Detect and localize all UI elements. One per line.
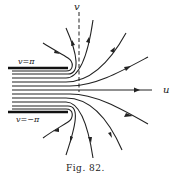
arrow-icon (53, 128, 59, 132)
u-axis-label: u (163, 84, 169, 95)
streamline (12, 102, 93, 158)
upper-streamlines (12, 20, 148, 86)
streamline-diagram: v v=π v=−π u Fig. 82. (0, 0, 178, 176)
top-wall-label: v=π (18, 57, 35, 66)
figure-82: v v=π v=−π u Fig. 82. (0, 0, 178, 176)
bottom-wall-label: v=−π (16, 115, 40, 124)
arrow-icon (70, 136, 73, 143)
arrow-icon (124, 66, 131, 71)
v-axis-label: v (74, 1, 80, 12)
arrow-icon (108, 132, 112, 138)
arrow-icon (134, 88, 140, 93)
lower-streamlines (12, 94, 148, 158)
streamline (12, 106, 75, 155)
figure-caption: Fig. 82. (66, 163, 105, 173)
